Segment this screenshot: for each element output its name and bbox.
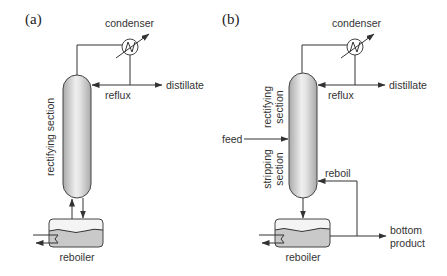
rectifying-section-label: rectifying section: [44, 98, 56, 176]
overhead-vapor-line: [77, 45, 122, 75]
distillate-label: distillate: [389, 79, 427, 91]
reflux-label: reflux: [105, 89, 131, 101]
bottom-product-label-line2: product: [390, 237, 425, 249]
rectifying-section-label-line1: rectifying: [261, 86, 273, 128]
stripping-section-label-line2: section: [273, 152, 285, 185]
reflux-label: reflux: [328, 89, 354, 101]
reboil-label: reboil: [325, 167, 351, 179]
distillate-label: distillate: [166, 79, 204, 91]
diagram-canvas: (a) condenser reflux distillate rectifyi…: [0, 0, 447, 276]
condenser-icon: [116, 34, 149, 58]
reboiler-label: reboiler: [285, 251, 321, 263]
column-vessel: [289, 73, 317, 198]
condenser-label: condenser: [105, 17, 155, 29]
overhead-vapor-line: [302, 45, 347, 73]
feed-label: feed: [222, 133, 243, 145]
rectifying-section-label-line2: section: [273, 90, 285, 123]
condenser-icon: [341, 34, 374, 58]
panel-label-a: (a): [25, 11, 42, 28]
stripping-section-label-line1: stripping: [261, 149, 273, 189]
distillation-column-figure: (a) condenser reflux distillate rectifyi…: [0, 0, 447, 276]
column-vessel: [63, 75, 91, 198]
panel-a: (a) condenser reflux distillate rectifyi…: [25, 11, 204, 263]
panel-label-b: (b): [222, 11, 240, 28]
reboiler-label: reboiler: [59, 251, 95, 263]
condenser-label: condenser: [332, 17, 382, 29]
bottom-product-label-line1: bottom: [390, 224, 422, 236]
panel-b: (b) condenser reflux distillate rectifyi…: [222, 11, 427, 263]
